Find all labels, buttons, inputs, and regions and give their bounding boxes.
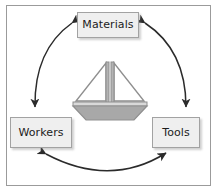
node-tools[interactable]: Tools [152, 117, 200, 148]
node-tools-label: Tools [162, 127, 190, 139]
node-workers-label: Workers [18, 127, 63, 139]
sailboat-mast-left [106, 62, 109, 106]
diagram-canvas: Materials Workers Tools [0, 0, 218, 193]
sailboat-rear-sail [114, 63, 144, 101]
arrow-materials-workers [35, 23, 72, 107]
sailboat-hull [73, 106, 147, 120]
sailboat-front-sail [76, 63, 106, 101]
node-materials[interactable]: Materials [77, 12, 139, 38]
sailboat-icon [68, 60, 152, 122]
node-workers[interactable]: Workers [10, 117, 72, 148]
node-materials-label: Materials [82, 19, 133, 31]
sailboat-mast-right [111, 62, 114, 106]
arrow-workers-tools [46, 153, 166, 171]
